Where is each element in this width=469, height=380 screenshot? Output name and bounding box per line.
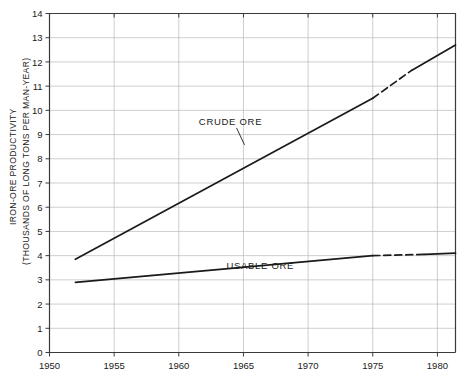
- y-tick-label: 7: [37, 178, 42, 189]
- y-tick-label: 10: [32, 105, 43, 116]
- x-tick-label: 1975: [362, 360, 383, 371]
- series-label-crude-ore: CRUDE ORE: [199, 116, 262, 127]
- y-tick-label: 9: [37, 129, 42, 140]
- y-tick-label: 6: [37, 202, 42, 213]
- y-tick-label: 0: [37, 347, 42, 358]
- y-tick-label: 4: [37, 250, 42, 261]
- y-tick-label: 12: [32, 57, 43, 68]
- x-tick-label: 1965: [233, 360, 254, 371]
- series-line-usable-ore: [424, 253, 455, 254]
- y-axis-title-line2: (THOUSANDS OF LONG TONS PER MAN-YEAR): [21, 58, 31, 265]
- chart-background: [0, 0, 469, 380]
- x-tick-label: 1955: [104, 360, 125, 371]
- iron-ore-productivity-chart: 1950195519601965197019751980 01234567891…: [0, 0, 469, 380]
- y-axis-title-line1: IRON-ORE PRODUCTIVITY: [8, 108, 18, 225]
- x-tick-label: 1980: [427, 360, 448, 371]
- series-label-usable-ore: USABLE ORE: [226, 260, 294, 271]
- y-tick-label: 3: [37, 274, 42, 285]
- x-tick-label: 1950: [39, 360, 60, 371]
- y-tick-label: 5: [37, 226, 42, 237]
- y-tick-label: 2: [37, 299, 42, 310]
- y-tick-label: 13: [32, 32, 43, 43]
- y-tick-label: 1: [37, 323, 42, 334]
- x-tick-label: 1970: [298, 360, 319, 371]
- chart-canvas: 1950195519601965197019751980 01234567891…: [0, 0, 469, 380]
- y-tick-label: 11: [33, 81, 43, 92]
- y-tick-label: 14: [32, 8, 43, 19]
- x-tick-label: 1960: [168, 360, 189, 371]
- y-tick-label: 8: [37, 153, 42, 164]
